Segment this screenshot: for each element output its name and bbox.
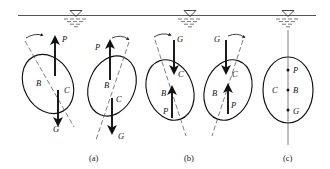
panel-b2: G C B P: [196, 34, 260, 136]
label-C: C: [178, 69, 184, 79]
water-level-symbol: [276, 11, 298, 27]
label-P: P: [61, 34, 67, 44]
water-hatch-icon: [64, 19, 86, 27]
label-C: C: [272, 85, 278, 95]
water-surface: [18, 11, 316, 27]
point-B: [287, 89, 290, 92]
point-G: [287, 109, 290, 112]
panel-a2: P B C G: [79, 36, 145, 141]
label-G: G: [118, 131, 124, 141]
tilt-axis-dashed-line: [25, 41, 74, 127]
rotation-arrow-cw-icon: [112, 36, 128, 39]
water-level-symbol: [64, 11, 86, 27]
label-B: B: [104, 80, 109, 90]
label-B: B: [36, 78, 41, 88]
label-G: G: [177, 34, 183, 44]
label-B: B: [212, 88, 217, 98]
panel-b1: G C B P: [138, 34, 202, 136]
caption-a: (a): [89, 153, 99, 163]
buoyancy-stability-figure: P B C G P B C G G C B P G C B P: [0, 0, 330, 169]
panel-c1: P C B G: [263, 30, 313, 145]
label-G: G: [293, 106, 299, 116]
rotation-arrow-ccw-icon: [154, 34, 170, 37]
label-P: P: [162, 106, 168, 116]
rotation-arrow-cw-icon: [228, 34, 244, 37]
label-B: B: [293, 85, 298, 95]
body-ellipse: [12, 45, 83, 122]
panel-a1: P B C G: [12, 34, 83, 134]
label-P: P: [292, 65, 298, 75]
water-level-symbol: [178, 11, 200, 27]
tilt-axis-dashed-line: [155, 40, 186, 136]
label-G: G: [53, 124, 59, 134]
caption-c: (c): [283, 153, 293, 163]
label-C: C: [232, 69, 238, 79]
caption-b: (b): [184, 153, 194, 163]
label-P: P: [94, 42, 100, 52]
rotation-arrow-ccw-icon: [26, 34, 42, 38]
water-hatch-icon: [178, 19, 200, 27]
label-C: C: [116, 94, 122, 104]
body-ellipse: [138, 53, 202, 127]
label-B: B: [161, 88, 166, 98]
water-hatch-icon: [276, 19, 298, 27]
label-C: C: [64, 85, 70, 95]
label-P: P: [230, 100, 236, 110]
point-P: [287, 69, 290, 72]
label-G: G: [214, 34, 220, 44]
